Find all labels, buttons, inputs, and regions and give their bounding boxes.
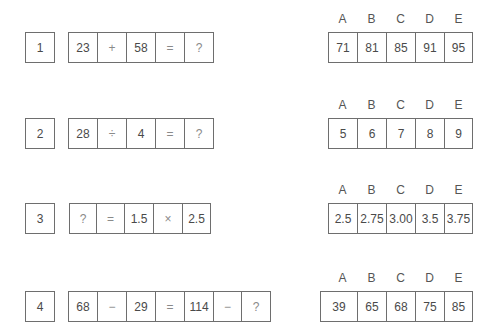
equation-operator: − [213, 291, 242, 322]
equation-cell: 29 [126, 291, 156, 322]
equation-cell: 28 [68, 118, 98, 149]
answer-option-c[interactable]: 7 [386, 118, 416, 149]
answer-option-d[interactable]: 3.5 [415, 203, 445, 234]
equation-unknown: ? [184, 118, 214, 149]
option-label: B [357, 271, 386, 285]
option-label: C [386, 98, 415, 112]
equation-operator: − [97, 291, 127, 322]
equation-unknown: ? [241, 291, 271, 322]
answer-option-a[interactable]: 5 [328, 118, 358, 149]
equation-operator: = [96, 203, 125, 234]
option-label: D [415, 98, 444, 112]
answer-option-d[interactable]: 75 [415, 291, 445, 322]
option-label: A [328, 271, 357, 285]
answer-option-b[interactable]: 81 [357, 32, 387, 63]
question-number: 3 [25, 203, 55, 234]
option-label: E [444, 183, 473, 197]
answer-option-a[interactable]: 2.5 [328, 203, 358, 234]
equation-cell: 1.5 [124, 203, 154, 234]
option-label: B [357, 183, 386, 197]
equation-unknown: ? [69, 203, 97, 234]
equation-cell: 23 [68, 32, 98, 63]
equation-cell: 2.5 [182, 203, 211, 234]
equation-operator: = [155, 291, 185, 322]
option-label: D [415, 271, 444, 285]
equation-operator: ÷ [97, 118, 127, 149]
answer-option-a[interactable]: 71 [328, 32, 358, 63]
answer-option-b[interactable]: 2.75 [357, 203, 387, 234]
option-label: E [444, 12, 473, 26]
answer-option-c[interactable]: 68 [386, 291, 416, 322]
equation-operator: = [155, 32, 185, 63]
answer-option-e[interactable]: 3.75 [444, 203, 473, 234]
equation-cell: 58 [126, 32, 156, 63]
answer-option-a[interactable]: 39 [320, 291, 358, 322]
option-label: E [444, 271, 473, 285]
option-label: D [415, 183, 444, 197]
answer-option-d[interactable]: 8 [415, 118, 445, 149]
equation-cell: 68 [68, 291, 98, 322]
option-label: B [357, 98, 386, 112]
equation-operator: = [155, 118, 185, 149]
answer-option-c[interactable]: 3.00 [386, 203, 416, 234]
answer-option-c[interactable]: 85 [386, 32, 416, 63]
option-label: C [386, 271, 415, 285]
option-label: A [328, 183, 357, 197]
equation-cell: 4 [126, 118, 156, 149]
question-number: 1 [25, 32, 55, 63]
answer-option-e[interactable]: 85 [444, 291, 473, 322]
option-label: A [328, 98, 357, 112]
equation-operator: + [97, 32, 127, 63]
equation-unknown: ? [184, 32, 214, 63]
equation-operator: × [153, 203, 183, 234]
answer-option-e[interactable]: 95 [444, 32, 473, 63]
answer-option-d[interactable]: 91 [415, 32, 445, 63]
answer-option-b[interactable]: 65 [357, 291, 387, 322]
option-label: A [328, 12, 357, 26]
question-number: 4 [25, 291, 55, 322]
answer-option-b[interactable]: 6 [357, 118, 387, 149]
option-label: C [386, 12, 415, 26]
option-label: B [357, 12, 386, 26]
option-label: C [386, 183, 415, 197]
option-label: E [444, 98, 473, 112]
question-number: 2 [25, 118, 55, 149]
answer-option-e[interactable]: 9 [444, 118, 473, 149]
equation-cell: 114 [184, 291, 214, 322]
option-label: D [415, 12, 444, 26]
